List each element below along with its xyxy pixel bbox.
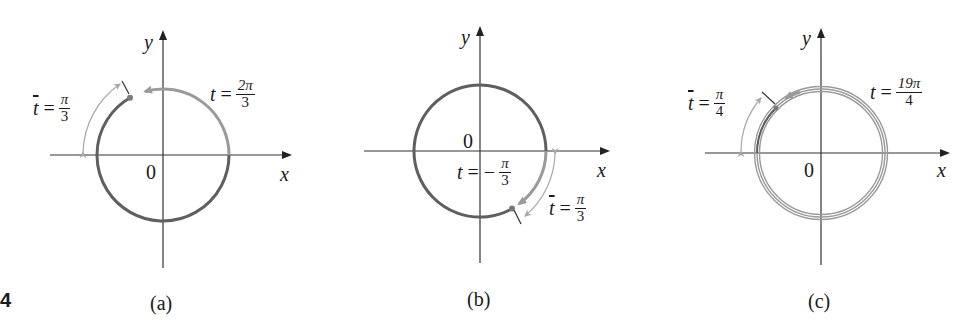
fraction: π 3 [59, 92, 71, 125]
panel-caption: (c) [808, 290, 830, 313]
denominator: 4 [903, 93, 915, 109]
fraction: π 3 [575, 192, 587, 225]
numerator: π [499, 156, 511, 173]
y-axis-label: y [802, 28, 811, 48]
reference-number-label: t = π 4 [688, 87, 725, 120]
terminal-point [127, 95, 133, 101]
t-value-label: t = 2π 3 [210, 78, 255, 111]
x-axis-label: x [280, 164, 289, 184]
denominator: 3 [240, 95, 252, 111]
tick-mark [122, 81, 129, 94]
equals-sign: = [221, 84, 232, 104]
equals-sign: = [699, 93, 710, 113]
denominator: 3 [575, 209, 587, 225]
equals-sign: = [881, 82, 892, 102]
x-axis-label: x [597, 160, 606, 180]
figure-number: 4 [0, 289, 11, 312]
numerator: 19π [896, 76, 923, 93]
y-axis-label: y [144, 32, 153, 52]
numerator: π [714, 87, 726, 104]
reference-number-label: t = π 3 [33, 92, 70, 125]
numerator: π [575, 192, 587, 209]
panel-a [50, 32, 290, 268]
fraction: 19π 4 [896, 76, 923, 109]
denominator: 4 [714, 104, 726, 120]
panel-c [705, 30, 948, 265]
numerator: 2π [236, 78, 255, 95]
t-variable: t [457, 162, 463, 182]
fraction: π 3 [499, 156, 511, 189]
tick-mark [762, 92, 775, 104]
x-axis-label: x [937, 160, 946, 180]
t-value-label: t = − π 3 [457, 156, 511, 189]
origin-label: 0 [146, 162, 156, 182]
equals-sign: = [44, 98, 55, 118]
panel-caption: (a) [150, 292, 172, 315]
equals-sign: = [560, 198, 571, 218]
denominator: 3 [499, 173, 511, 189]
t-variable: t [870, 82, 876, 102]
terminal-point [774, 106, 779, 111]
t-variable: t [210, 84, 216, 104]
reference-angle-arc [83, 84, 120, 152]
fraction: 2π 3 [236, 78, 255, 111]
panel-caption: (b) [467, 288, 490, 311]
tick-mark [514, 210, 521, 224]
reference-number-label: t = π 3 [549, 192, 586, 225]
y-axis-label: y [461, 27, 470, 47]
t-value-label: t = 19π 4 [870, 76, 922, 109]
tbar-variable: t [33, 98, 39, 118]
denominator: 3 [59, 109, 71, 125]
tbar-variable: t [549, 198, 555, 218]
panel-b [364, 28, 608, 263]
numerator: π [59, 92, 71, 109]
fraction: π 4 [714, 87, 726, 120]
equals-sign: = − [468, 162, 496, 182]
tbar-variable: t [688, 93, 694, 113]
origin-label: 0 [463, 131, 473, 151]
origin-label: 0 [804, 160, 814, 180]
